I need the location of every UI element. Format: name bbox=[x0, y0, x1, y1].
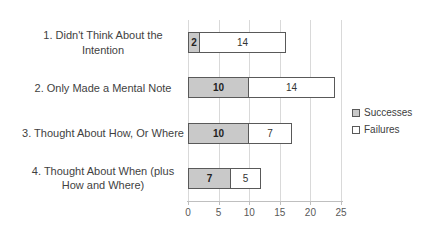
bar-segment-failures: 14 bbox=[248, 77, 335, 98]
legend-label: Successes bbox=[364, 107, 412, 118]
category-label: 4. Thought About When (plus How and Wher… bbox=[22, 156, 184, 201]
bar-segment-failures: 14 bbox=[199, 32, 286, 53]
bar-segment-failures: 5 bbox=[230, 168, 262, 189]
x-tick-label: 5 bbox=[216, 207, 222, 218]
legend-item-successes: Successes bbox=[352, 104, 412, 121]
legend-item-failures: Failures bbox=[352, 121, 412, 138]
x-tick-label: 10 bbox=[244, 207, 255, 218]
legend-swatch-icon bbox=[352, 126, 360, 134]
gridline bbox=[341, 20, 342, 201]
x-tick-label: 0 bbox=[185, 207, 191, 218]
bar-segment-failures: 7 bbox=[248, 123, 292, 144]
x-tick-label: 25 bbox=[335, 207, 346, 218]
gridline bbox=[310, 20, 311, 201]
category-label: 2. Only Made a Mental Note bbox=[22, 65, 184, 110]
legend-label: Failures bbox=[364, 124, 400, 135]
x-tick-label: 15 bbox=[274, 207, 285, 218]
bar-segment-successes: 10 bbox=[188, 77, 249, 98]
x-tick-label: 20 bbox=[305, 207, 316, 218]
category-label: 1. Didn't Think About the Intention bbox=[22, 20, 184, 65]
bar-segment-successes: 7 bbox=[188, 168, 231, 189]
category-label: 3. Thought About How, Or Where bbox=[22, 111, 184, 156]
bar-segment-successes: 10 bbox=[188, 123, 249, 144]
x-axis-line bbox=[187, 201, 343, 202]
legend-swatch-icon bbox=[352, 109, 360, 117]
legend: SuccessesFailures bbox=[352, 104, 412, 138]
stacked-bar-chart: SuccessesFailures 05101520251. Didn't Th… bbox=[0, 0, 426, 235]
